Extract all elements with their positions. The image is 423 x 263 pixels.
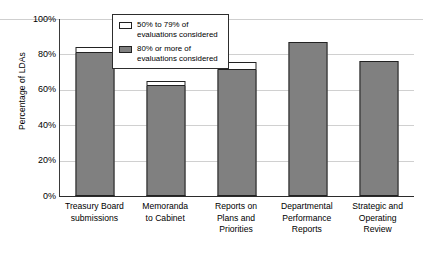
y-tick-label: 0%: [22, 192, 56, 201]
x-axis-labels: Treasury Board submissions Memoranda to …: [59, 201, 413, 261]
bar-chart: Percentage of LDAs 100% 80% 60% 40% 20% …: [0, 0, 423, 263]
legend-item-label: 50% to 79% of evaluations considered: [137, 20, 218, 39]
y-tick-label: 20%: [22, 156, 56, 165]
legend-label-line: evaluations considered: [137, 30, 218, 40]
legend-item-80-plus[interactable]: 80% or more of evaluations considered: [119, 44, 224, 63]
bar-segment-80-plus[interactable]: [288, 42, 327, 196]
legend-label-line: evaluations considered: [137, 54, 218, 64]
x-tick-label-departmental-performance-reports: Departmental Performance Reports: [268, 201, 346, 236]
x-label-line: submissions: [55, 213, 133, 225]
x-label-line: Reports: [268, 224, 346, 236]
legend-item-label: 80% or more of evaluations considered: [137, 44, 218, 63]
chart-legend: 50% to 79% of evaluations considered 80%…: [112, 14, 229, 69]
legend-item-50-79[interactable]: 50% to 79% of evaluations considered: [119, 20, 224, 39]
bar-stack[interactable]: [147, 81, 186, 196]
x-label-line: Plans and: [197, 213, 275, 225]
bar-stack[interactable]: [359, 61, 398, 196]
legend-swatch-icon: [119, 22, 132, 29]
bar-stack[interactable]: [217, 62, 256, 197]
legend-label-line: 80% or more of: [137, 44, 218, 54]
bar-group-strategic-and-operating-review[interactable]: [343, 19, 414, 196]
x-label-line: Performance: [268, 213, 346, 225]
x-label-line: Operating: [339, 213, 417, 225]
y-axis-ticks: 100% 80% 60% 40% 20% 0%: [0, 0, 56, 263]
x-label-line: Departmental: [268, 201, 346, 213]
legend-swatch-icon: [119, 46, 132, 53]
bar-segment-80-plus[interactable]: [217, 70, 256, 196]
y-tick-label: 40%: [22, 121, 56, 130]
x-label-line: Strategic and: [339, 201, 417, 213]
x-label-line: Priorities: [197, 224, 275, 236]
x-tick-label-treasury-board-submissions: Treasury Board submissions: [55, 201, 133, 224]
y-tick-label: 60%: [22, 85, 56, 94]
bar-stack[interactable]: [76, 47, 115, 196]
x-label-line: Memoranda: [126, 201, 204, 213]
x-tick-label-reports-on-plans-and-priorities: Reports on Plans and Priorities: [197, 201, 275, 236]
bar-group-departmental-performance-reports[interactable]: [272, 19, 343, 196]
x-label-line: Reports on: [197, 201, 275, 213]
bar-segment-80-plus[interactable]: [359, 61, 398, 196]
x-label-line: Review: [339, 224, 417, 236]
x-label-line: Treasury Board: [55, 201, 133, 213]
bar-stack[interactable]: [288, 42, 327, 196]
x-tick-label-strategic-and-operating-review: Strategic and Operating Review: [339, 201, 417, 236]
y-tick-label: 100%: [22, 15, 56, 24]
bar-segment-80-plus[interactable]: [76, 53, 115, 196]
x-label-line: to Cabinet: [126, 213, 204, 225]
y-tick-label: 80%: [22, 50, 56, 59]
x-tick-label-memoranda-to-cabinet: Memoranda to Cabinet: [126, 201, 204, 224]
legend-label-line: 50% to 79% of: [137, 20, 218, 30]
bar-segment-80-plus[interactable]: [147, 86, 186, 196]
